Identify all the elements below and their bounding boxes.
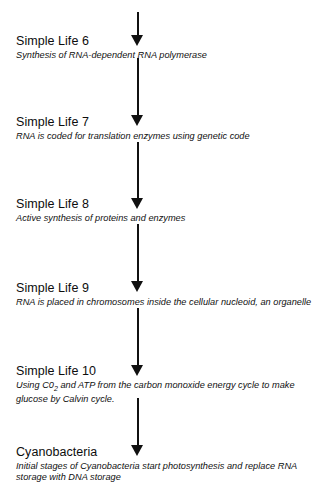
step-title: Simple Life 8	[16, 197, 185, 212]
step-description: RNA is placed in chromosomes inside the …	[16, 297, 311, 308]
step-simple-life-9: Simple Life 9 RNA is placed in chromosom…	[16, 281, 311, 308]
step-description-prefix: Using C0	[16, 380, 54, 390]
step-simple-life-6: Simple Life 6 Synthesis of RNA-dependent…	[16, 34, 207, 61]
arrow-shaft	[137, 224, 139, 281]
step-title: Simple Life 7	[16, 115, 250, 130]
step-title: Simple Life 10	[16, 364, 318, 379]
step-simple-life-8: Simple Life 8 Active synthesis of protei…	[16, 197, 185, 224]
flowchart-diagram: Simple Life 6 Synthesis of RNA-dependent…	[0, 0, 321, 494]
arrow-shaft	[137, 12, 139, 35]
step-title: Simple Life 9	[16, 281, 311, 296]
arrow-shaft	[137, 58, 139, 115]
arrow-shaft	[137, 142, 139, 198]
step-description: Initial stages of Cyanobacteria start ph…	[16, 461, 318, 483]
step-cyanobacteria: Cyanobacteria Initial stages of Cyanobac…	[16, 445, 318, 483]
step-description: Active synthesis of proteins and enzymes	[16, 213, 185, 224]
step-description: Synthesis of RNA-dependent RNA polymeras…	[16, 50, 207, 61]
step-title: Cyanobacteria	[16, 445, 318, 460]
step-simple-life-10: Simple Life 10 Using C02 and ATP from th…	[16, 364, 318, 405]
step-simple-life-7: Simple Life 7 RNA is coded for translati…	[16, 115, 250, 142]
arrow-shaft	[137, 308, 139, 365]
step-description-suffix: and ATP from the carbon monoxide energy …	[16, 380, 295, 404]
step-title: Simple Life 6	[16, 34, 207, 49]
step-description: RNA is coded for translation enzymes usi…	[16, 131, 250, 142]
step-description: Using C02 and ATP from the carbon monoxi…	[16, 380, 318, 405]
